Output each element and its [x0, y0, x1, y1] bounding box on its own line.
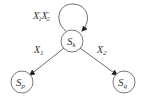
edge-label-x1: X1: [33, 44, 44, 57]
self-loop-label: X'1X'2: [32, 10, 50, 22]
node-sk: Sk: [61, 30, 83, 52]
state-diagram: Sk Sp Sq X'1X'2 X1 X2: [0, 0, 144, 100]
self-loop-edge: [59, 4, 88, 31]
node-sp: Sp: [11, 71, 33, 93]
edge-label-x2: X2: [96, 44, 107, 57]
node-sq: Sq: [113, 71, 135, 93]
